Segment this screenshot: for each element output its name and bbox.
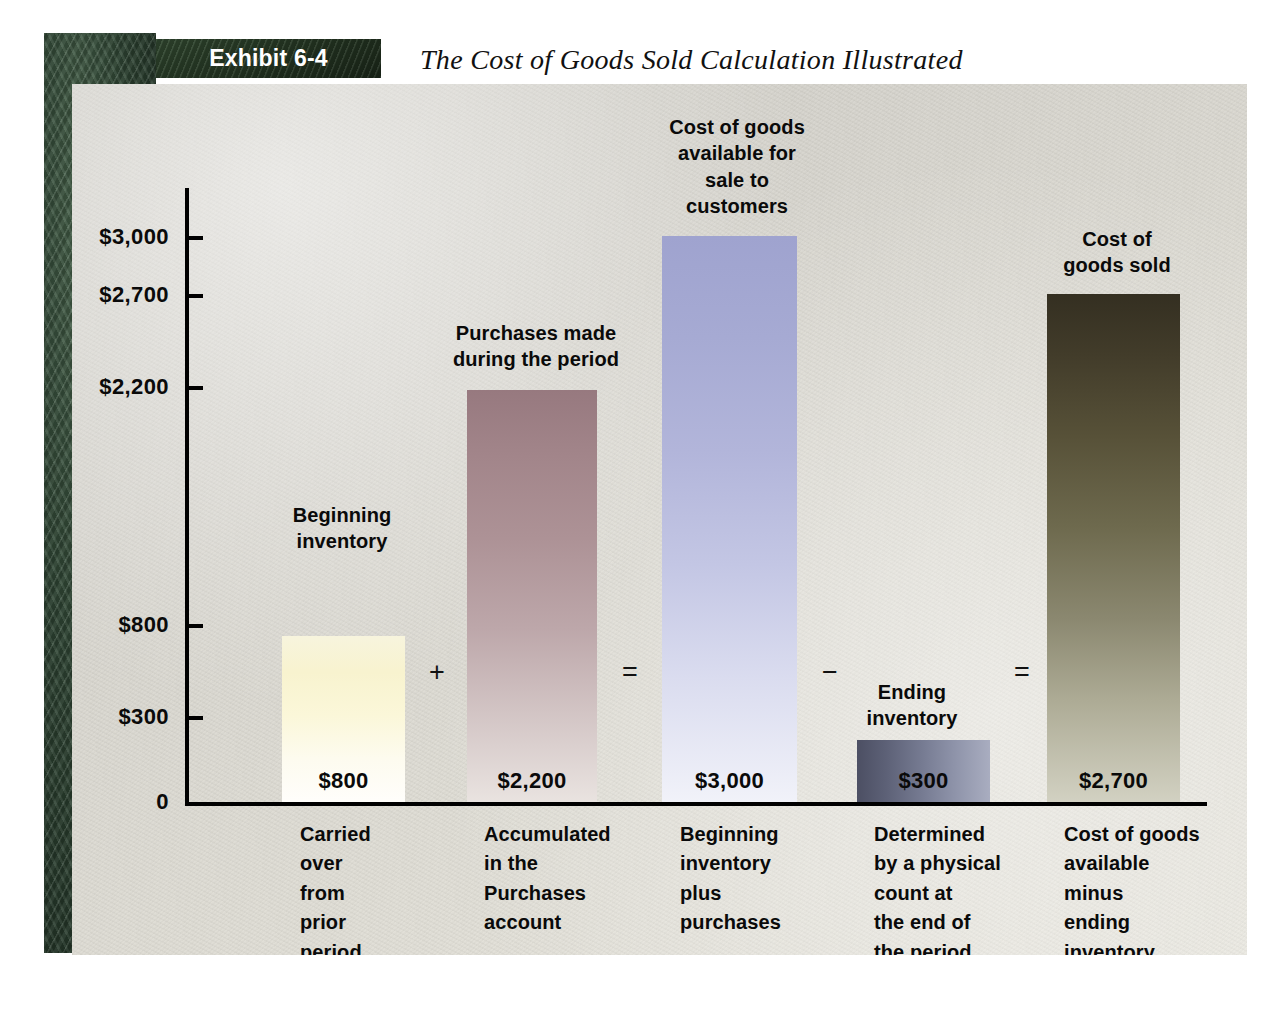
exhibit-page: Exhibit 6-4 The Cost of Goods Sold Calcu… [0, 0, 1287, 1015]
bar-description-purchases: Accumulatedin thePurchasesaccount [484, 820, 664, 938]
bar-top-label-cogs: Cost ofgoods sold [1022, 226, 1212, 279]
bar-description-cogs: Cost of goodsavailableminusendinginvento… [1064, 820, 1247, 955]
bar-cogs: $2,700 [1047, 294, 1180, 802]
bar-description-beginning-inventory: Carriedoverfrompriorperiod [300, 820, 450, 955]
bar-description-goods-available: Beginninginventorypluspurchases [680, 820, 850, 938]
y-axis-line [185, 188, 189, 806]
bar-value-cogs: $2,700 [1047, 768, 1180, 794]
bar-description-ending-inventory: Determinedby a physicalcount atthe end o… [874, 820, 1064, 955]
x-axis-line [185, 802, 1207, 806]
bar-beginning-inventory: $800 [282, 636, 405, 802]
bar-top-label-beginning-inventory: Beginninginventory [272, 502, 412, 555]
operator-plus: + [417, 657, 457, 688]
operator-equals-2: = [1002, 657, 1042, 688]
y-tick-2200 [189, 386, 203, 390]
exhibit-number-badge: Exhibit 6-4 [156, 39, 381, 78]
y-tick-label-300: $300 [118, 704, 169, 730]
y-tick-2700 [189, 294, 203, 298]
bar-goods-available: $3,000 [662, 236, 797, 802]
bar-value-ending-inventory: $300 [857, 768, 990, 794]
bar-purchases: $2,200 [467, 390, 597, 802]
y-tick-label-2700: $2,700 [99, 282, 169, 308]
bar-ending-inventory: $300 [857, 740, 990, 802]
y-tick-label-3000: $3,000 [99, 224, 169, 250]
bar-value-purchases: $2,200 [467, 768, 597, 794]
y-tick-3000 [189, 236, 203, 240]
y-tick-label-2200: $2,200 [99, 374, 169, 400]
bar-top-label-purchases: Purchases madeduring the period [426, 320, 646, 373]
operator-equals-1: = [610, 657, 650, 688]
bar-top-label-ending-inventory: Endinginventory [832, 679, 992, 732]
y-tick-300 [189, 716, 203, 720]
exhibit-title: The Cost of Goods Sold Calculation Illus… [420, 44, 963, 76]
bar-top-label-goods-available: Cost of goodsavailable forsale tocustome… [637, 114, 837, 220]
plot-area: $3,000 $2,700 $2,200 $800 $300 0 Beginni… [72, 84, 1247, 955]
chart-panel: $3,000 $2,700 $2,200 $800 $300 0 Beginni… [72, 84, 1247, 955]
y-tick-800 [189, 624, 203, 628]
y-tick-label-0: 0 [156, 789, 169, 815]
bar-value-goods-available: $3,000 [662, 768, 797, 794]
y-tick-label-800: $800 [118, 612, 169, 638]
bar-value-beginning-inventory: $800 [282, 768, 405, 794]
exhibit-number-label: Exhibit 6-4 [209, 45, 328, 72]
